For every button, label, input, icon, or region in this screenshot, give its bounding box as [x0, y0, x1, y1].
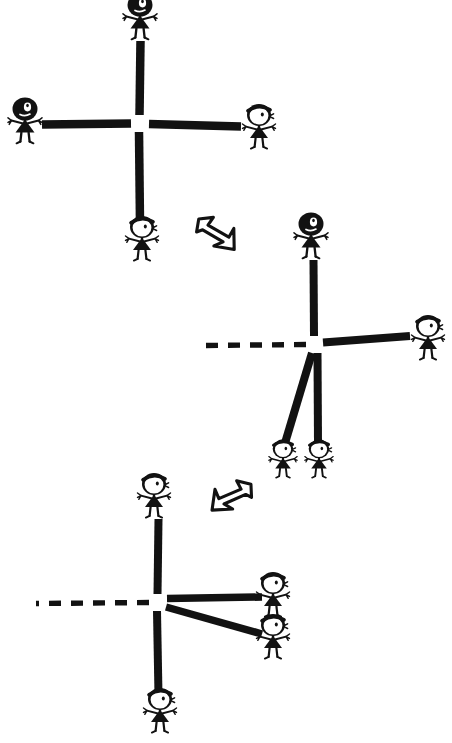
- figure-bottom-right-2: [305, 439, 333, 477]
- stage-3-merged: [36, 473, 290, 733]
- figure-right-1: [243, 104, 276, 149]
- stage-3-spokes: [36, 519, 262, 696]
- stage-1-cross: [8, 0, 276, 261]
- spoke-down-left: [285, 353, 312, 443]
- figure-bottom-1: [126, 216, 159, 261]
- spoke-right-lower: [166, 607, 262, 634]
- diagram-svg: [0, 0, 452, 743]
- transition-arrow-1: [196, 217, 236, 250]
- spoke-right-upper: [167, 597, 262, 599]
- figure-right-upper-3: [257, 572, 290, 617]
- figure-right-2: [412, 315, 445, 360]
- figure-left-1: [8, 98, 42, 144]
- stage-2-split: [203, 213, 445, 478]
- spoke-down: [139, 132, 140, 224]
- spoke-down-right: [318, 353, 319, 443]
- spoke-up: [314, 260, 315, 336]
- spoke-left-dashed: [36, 603, 149, 604]
- figure-top-2: [294, 213, 328, 259]
- spoke-right: [149, 124, 241, 127]
- figure-top-1: [123, 0, 157, 39]
- spoke-right: [323, 336, 410, 343]
- figure-bottom-3: [144, 688, 177, 733]
- figure-right-lower-3: [257, 614, 290, 659]
- spoke-down: [157, 611, 159, 696]
- spoke-up: [158, 519, 159, 594]
- figure-top-3: [138, 473, 171, 518]
- spoke-up: [140, 41, 141, 115]
- stage-1-spokes: [42, 41, 241, 224]
- stage-2-spokes: [203, 260, 410, 443]
- spoke-left-dashed: [203, 345, 306, 346]
- spoke-left: [42, 124, 131, 125]
- transition-arrow-2: [212, 479, 253, 513]
- figure-bottom-left-2: [269, 439, 297, 477]
- sketch-canvas: [0, 0, 452, 743]
